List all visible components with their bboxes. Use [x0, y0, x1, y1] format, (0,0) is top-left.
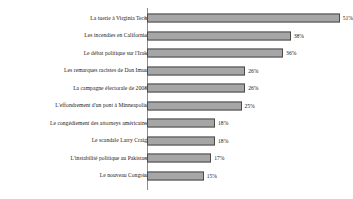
bar [147, 14, 340, 23]
bar-group: 18% [147, 136, 228, 145]
bar-group: 51% [147, 14, 353, 23]
axis-tick [144, 123, 148, 124]
axis-tick [144, 88, 148, 89]
bar [147, 101, 242, 110]
value-label: 25% [245, 102, 255, 109]
bar-row: Le scandale Larry Craig18% [0, 132, 347, 149]
bar [147, 31, 291, 40]
category-label: La tuerie à Virginia Tech [3, 15, 147, 22]
value-label: 26% [248, 67, 258, 74]
bar-group: 25% [147, 101, 255, 110]
bar-row: Le débat politique sur l'Irak36% [0, 45, 347, 62]
bar-row: L'effondrement d'un pont à Minneapolis25… [0, 97, 347, 114]
bar-row: Le nouveau Congrès15% [0, 167, 347, 184]
bar-row: Le congédiement des attorneys américains… [0, 115, 347, 132]
bar-row: L'instabilité politique au Pakistan17% [0, 150, 347, 167]
value-label: 38% [294, 32, 304, 39]
axis-tick [144, 176, 148, 177]
bar-group: 15% [147, 171, 217, 180]
bar [147, 49, 283, 58]
category-label: La campagne électorale de 2008 [3, 85, 147, 92]
axis-tick [144, 71, 148, 72]
bar-group: 18% [147, 119, 228, 128]
category-label: Le nouveau Congrès [3, 172, 147, 179]
category-label: L'instabilité politique au Pakistan [3, 155, 147, 162]
bar-row: La campagne électorale de 200826% [0, 80, 347, 97]
value-label: 51% [343, 15, 353, 22]
bar [147, 84, 245, 93]
value-label: 15% [207, 172, 217, 179]
bar-group: 17% [147, 154, 225, 163]
category-label: Le congédiement des attorneys américains [3, 120, 147, 127]
bar [147, 66, 245, 75]
category-label: Les remarques racistes de Don Imus [3, 67, 147, 74]
bar-row: Les remarques racistes de Don Imus26% [0, 62, 347, 79]
category-label: Le scandale Larry Craig [3, 137, 147, 144]
axis-tick [144, 158, 148, 159]
value-label: 26% [248, 85, 258, 92]
bar-group: 26% [147, 66, 259, 75]
bar [147, 136, 215, 145]
value-label: 17% [214, 155, 224, 162]
category-label: Les incendies en Californie [3, 32, 147, 39]
axis-tick [144, 106, 148, 107]
value-label: 18% [218, 137, 228, 144]
bar [147, 154, 211, 163]
axis-tick [144, 36, 148, 37]
bar-row: Les incendies en Californie38% [0, 27, 347, 44]
bar-group: 36% [147, 49, 296, 58]
bar [147, 119, 215, 128]
bar-row: La tuerie à Virginia Tech51% [0, 10, 347, 27]
value-label: 36% [286, 50, 296, 57]
bar [147, 171, 204, 180]
bar-group: 26% [147, 84, 259, 93]
category-label: Le débat politique sur l'Irak [3, 50, 147, 57]
axis-tick [144, 53, 148, 54]
axis-tick [144, 18, 148, 19]
axis-tick [144, 141, 148, 142]
value-label: 18% [218, 120, 228, 127]
bar-group: 38% [147, 31, 304, 40]
category-label: L'effondrement d'un pont à Minneapolis [3, 102, 147, 109]
